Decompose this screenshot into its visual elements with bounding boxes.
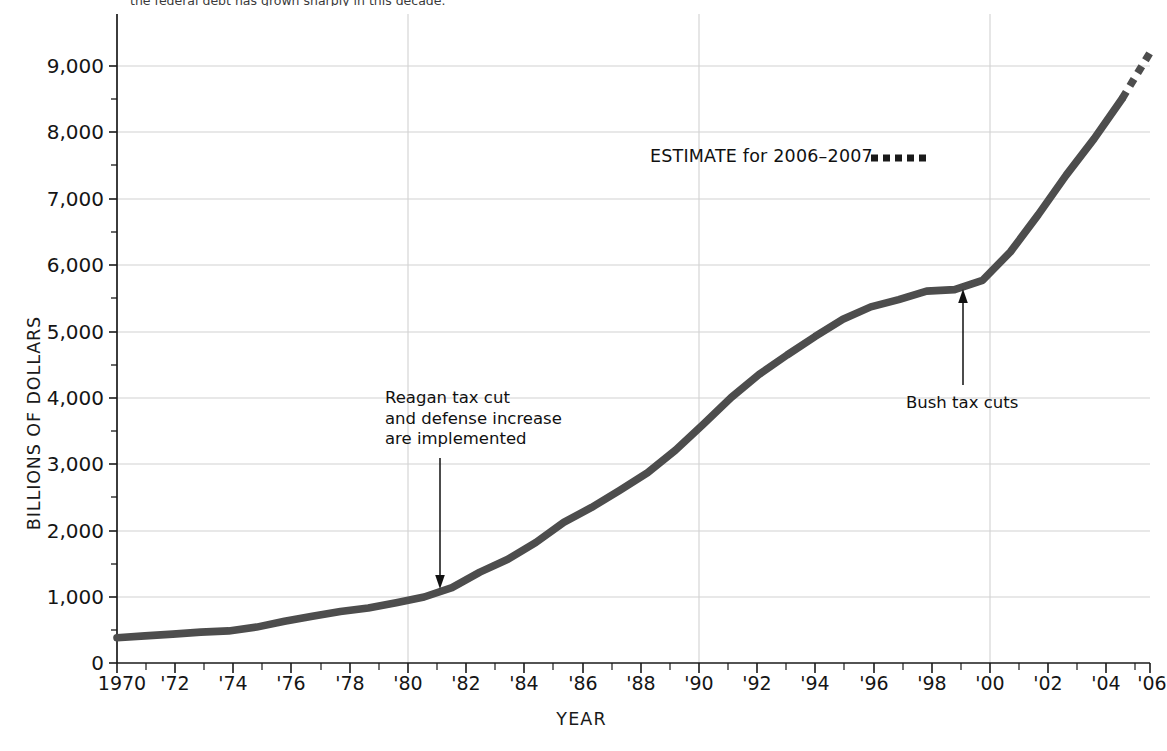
x-tick-1980: '80 xyxy=(393,672,422,694)
x-tick-1990: '90 xyxy=(684,672,713,694)
debt-line-actual xyxy=(117,99,1122,638)
bush-arrow xyxy=(958,289,968,385)
horizontal-gridlines xyxy=(117,66,1150,597)
x-tick-1974: '74 xyxy=(218,672,247,694)
y-axis-title: BILLIONS OF DOLLARS xyxy=(24,258,44,588)
y-axis-minor-ticks xyxy=(111,99,117,630)
x-tick-2002: '02 xyxy=(1033,672,1062,694)
x-tick-1988: '88 xyxy=(626,672,655,694)
y-tick-5000: 5,000 xyxy=(4,320,104,344)
y-tick-7000: 7,000 xyxy=(4,187,104,211)
x-axis-title: YEAR xyxy=(0,709,1163,729)
x-tick-1972: '72 xyxy=(160,672,189,694)
x-tick-1992: '92 xyxy=(742,672,771,694)
reagan-arrow xyxy=(435,458,445,589)
reagan-annotation-line-3: are implemented xyxy=(385,429,600,450)
x-tick-2000: '00 xyxy=(975,672,1004,694)
x-tick-1998: '98 xyxy=(917,672,946,694)
x-axis-tick-labels: 1970 '72 '74 '76 '78 '80 '82 '84 '86 '88… xyxy=(0,672,1163,702)
x-tick-2006: '06 xyxy=(1137,672,1166,694)
debt-line-estimate xyxy=(1122,53,1150,99)
x-tick-2004: '04 xyxy=(1091,672,1120,694)
x-tick-1994: '94 xyxy=(800,672,829,694)
estimate-legend-label: ESTIMATE for 2006–2007 xyxy=(650,146,873,167)
x-tick-1970: 1970 xyxy=(98,672,146,694)
y-tick-8000: 8,000 xyxy=(4,120,104,144)
y-tick-4000: 4,000 xyxy=(4,386,104,410)
y-tick-1000: 1,000 xyxy=(4,585,104,609)
bush-annotation: Bush tax cuts xyxy=(906,393,1066,414)
y-tick-9000: 9,000 xyxy=(4,54,104,78)
reagan-annotation-line-1: Reagan tax cut xyxy=(385,388,600,409)
y-axis-tick-labels: 9,000 8,000 7,000 6,000 5,000 4,000 3,00… xyxy=(0,0,104,751)
reagan-annotation-line-2: and defense increase xyxy=(385,409,600,430)
x-tick-1982: '82 xyxy=(451,672,480,694)
x-tick-1986: '86 xyxy=(568,672,597,694)
y-tick-6000: 6,000 xyxy=(4,253,104,277)
y-tick-2000: 2,000 xyxy=(4,519,104,543)
reagan-annotation: Reagan tax cut and defense increase are … xyxy=(385,388,600,450)
x-tick-1996: '96 xyxy=(859,672,888,694)
x-tick-1978: '78 xyxy=(335,672,364,694)
x-tick-1984: '84 xyxy=(509,672,538,694)
y-tick-3000: 3,000 xyxy=(4,452,104,476)
x-tick-1976: '76 xyxy=(276,672,305,694)
